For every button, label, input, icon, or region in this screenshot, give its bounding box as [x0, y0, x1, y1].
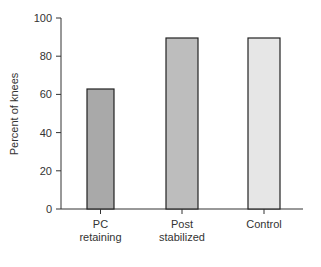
y-tick-label: 0	[46, 203, 52, 215]
y-tick-label: 40	[40, 127, 52, 139]
bar-pc-retaining	[87, 89, 114, 209]
y-tick-label: 60	[40, 88, 52, 100]
x-category-label: PC	[93, 218, 108, 230]
x-category-label: stabilized	[159, 231, 205, 243]
bar-control	[248, 38, 280, 209]
bar-chart: Percent of knees 0 20 40 60 80 100 PC re…	[0, 0, 321, 267]
x-category-label: Post	[171, 218, 193, 230]
y-ticks: 0 20 40 60 80 100	[34, 12, 61, 215]
x-category-label: retaining	[79, 231, 121, 243]
y-tick-label: 20	[40, 165, 52, 177]
x-category-label: Control	[246, 218, 281, 230]
bar-post-stabilized	[166, 38, 198, 209]
y-tick-label: 100	[34, 12, 52, 24]
y-axis-title: Percent of knees	[8, 72, 20, 155]
y-tick-label: 80	[40, 50, 52, 62]
